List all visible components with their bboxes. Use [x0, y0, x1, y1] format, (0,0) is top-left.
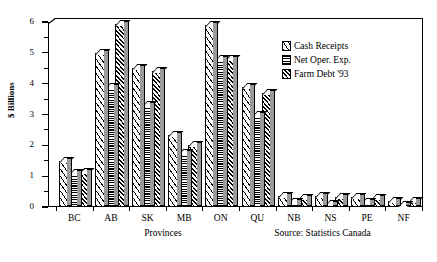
bar-side-face [260, 112, 265, 207]
bar-side-face [233, 56, 238, 206]
x-axis-title: Provinces [103, 228, 223, 238]
bar-side-face [197, 142, 202, 206]
bar-side-face [250, 84, 255, 206]
bar-side-face [150, 102, 155, 206]
bar-pe-series-1 [351, 197, 361, 207]
plot-frame-right [422, 18, 423, 207]
y-tick-label: 5 [12, 48, 34, 57]
legend-item-farm-debt: Farm Debt '93 [282, 68, 351, 80]
y-tick-label: 6 [12, 17, 34, 26]
x-category-label-nb: NB [274, 213, 314, 224]
x-tick [129, 207, 130, 211]
legend-label-farm-debt: Farm Debt '93 [294, 69, 348, 79]
bar-on-series-1 [205, 25, 215, 207]
y-axis-title: $ Billions [6, 65, 16, 135]
bar-nb-series-1 [278, 196, 288, 207]
legend-swatch-icon-net-oper-exp [282, 55, 291, 65]
legend: Cash Receipts Net Oper. Exp. Farm Debt '… [282, 40, 351, 82]
x-category-label-on: ON [201, 213, 241, 224]
bar-side-face [124, 21, 129, 206]
bar-ab-series-1 [95, 53, 105, 207]
x-tick [312, 207, 313, 211]
bar-side-face [307, 195, 312, 206]
bar-side-face [67, 158, 72, 206]
bar-mb-series-1 [168, 135, 178, 207]
bar-side-face [177, 132, 182, 206]
legend-swatch-icon-farm-debt [282, 69, 291, 79]
x-category-label-bc: BC [54, 213, 94, 224]
source-note: Source: Statistics Canada [235, 228, 410, 238]
y-tick-label: 0 [12, 202, 34, 211]
bar-side-face [287, 193, 292, 206]
y-tick-label: 4 [12, 79, 34, 88]
x-tick [166, 207, 167, 211]
x-category-label-ab: AB [91, 213, 131, 224]
plot-frame-corner [48, 18, 56, 24]
bar-nf-series-1 [388, 201, 398, 207]
bar-side-face [87, 169, 92, 206]
x-category-label-qu: QU [237, 213, 277, 224]
bar-side-face [343, 194, 348, 206]
x-tick [93, 207, 94, 211]
legend-item-net-oper-exp: Net Oper. Exp. [282, 54, 351, 66]
bar-side-face [114, 84, 119, 206]
bar-side-face [323, 193, 328, 206]
bar-side-face [160, 68, 165, 206]
x-tick [422, 207, 423, 211]
bar-side-face [416, 198, 421, 206]
bar-qu-series-1 [242, 87, 252, 207]
x-tick [349, 207, 350, 211]
x-category-label-sk: SK [128, 213, 168, 224]
x-category-label-nf: NF [384, 213, 424, 224]
x-category-label-pe: PE [347, 213, 387, 224]
bar-sk-series-1 [132, 68, 142, 207]
bar-side-face [187, 150, 192, 206]
y-tick-label: 1 [12, 171, 34, 180]
x-tick [385, 207, 386, 211]
bar-ns-series-1 [315, 196, 325, 207]
bar-side-face [297, 199, 302, 206]
bar-bc-series-1 [59, 161, 69, 207]
bar-side-face [360, 194, 365, 206]
bar-side-face [213, 22, 218, 206]
x-tick [239, 207, 240, 211]
bar-chart: $ Billions 0123456 BCABSKMBONQUNBNSPENF … [0, 0, 437, 262]
plot-frame-top [54, 18, 423, 19]
x-category-label-ns: NS [311, 213, 351, 224]
x-tick [202, 207, 203, 211]
bar-side-face [270, 90, 275, 206]
bar-side-face [140, 65, 145, 206]
bar-side-face [396, 198, 401, 206]
legend-label-cash-receipts: Cash Receipts [294, 41, 348, 51]
bar-side-face [223, 56, 228, 206]
y-tick-label: 3 [12, 110, 34, 119]
x-tick [276, 207, 277, 211]
legend-label-net-oper-exp: Net Oper. Exp. [294, 55, 351, 65]
legend-swatch-icon-cash-receipts [282, 41, 291, 51]
legend-item-cash-receipts: Cash Receipts [282, 40, 351, 52]
bar-side-face [406, 202, 411, 206]
y-tick-label: 2 [12, 140, 34, 149]
bar-side-face [333, 201, 338, 206]
x-tick [56, 207, 57, 211]
bar-side-face [370, 199, 375, 206]
bar-side-face [380, 195, 385, 206]
bar-side-face [104, 50, 109, 206]
x-category-label-mb: MB [164, 213, 204, 224]
bar-side-face [77, 170, 82, 206]
